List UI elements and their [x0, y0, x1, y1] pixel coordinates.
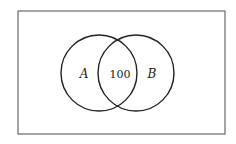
set-a-label: A: [79, 67, 89, 81]
intersection-value: 100: [110, 68, 131, 81]
set-b-label: B: [147, 67, 157, 81]
venn-diagram: A 100 B: [0, 0, 236, 144]
